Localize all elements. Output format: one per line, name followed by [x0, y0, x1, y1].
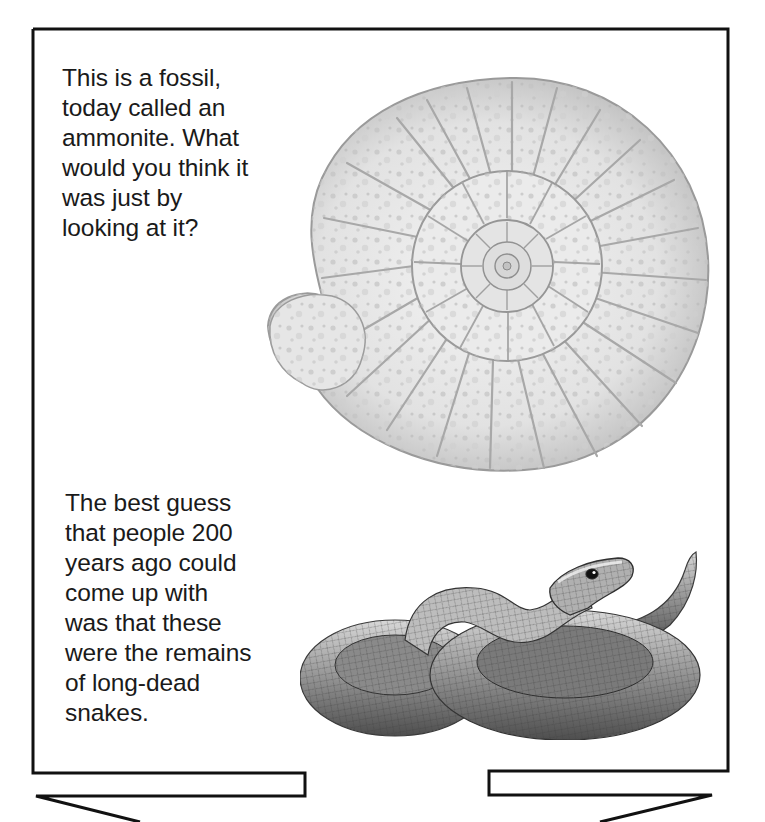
coiled-snake-illustration [300, 530, 720, 740]
ammonite-shell [268, 78, 708, 471]
snake-eye [586, 569, 598, 579]
ammonite-fossil-illustration [262, 58, 722, 483]
snake-caption: The best guess that people 200 years ago… [65, 488, 325, 728]
snake-body [300, 552, 700, 740]
